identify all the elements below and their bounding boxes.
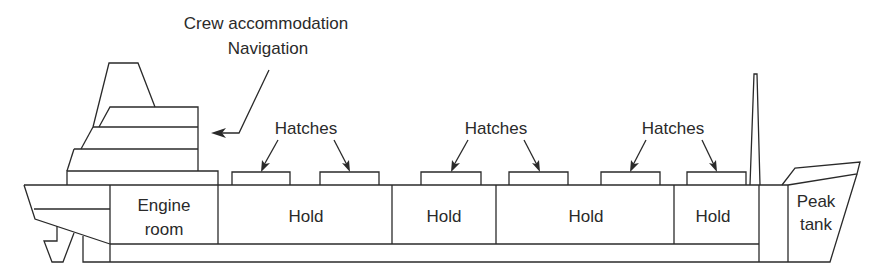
label-engine-room-line1: Engine xyxy=(138,196,191,215)
hatch-leader-1 xyxy=(264,140,278,165)
bridge-deck xyxy=(99,107,198,171)
label-peak-tank-line1: Peak xyxy=(797,192,836,211)
hatch-leader-5 xyxy=(633,140,646,165)
superstructure xyxy=(67,63,218,185)
hatch-leader-2 xyxy=(334,140,347,165)
hatch-leader-6 xyxy=(702,140,714,165)
stern-profile xyxy=(24,185,110,244)
funnel xyxy=(93,63,155,127)
hatch-cover-5 xyxy=(601,172,660,185)
mast xyxy=(750,74,760,185)
hatch-leader-4 xyxy=(524,140,537,165)
label-crew-accommodation: Crew accommodation xyxy=(184,14,348,33)
label-hold-3: Hold xyxy=(569,207,604,226)
label-peak-tank-line2: tank xyxy=(800,215,833,234)
forecastle xyxy=(782,162,860,185)
hatch-cover-2 xyxy=(320,172,379,185)
label-hold-4: Hold xyxy=(696,207,731,226)
ship-diagram: Crew accommodation Navigation Hatches Ha… xyxy=(0,0,875,277)
deck-level-3-side xyxy=(67,149,74,171)
label-hold-2: Hold xyxy=(427,207,462,226)
label-engine-room-line2: room xyxy=(145,220,184,239)
hatch-cover-1 xyxy=(232,172,290,185)
label-navigation: Navigation xyxy=(228,39,308,58)
poop-deck xyxy=(67,171,218,185)
hatch-cover-3 xyxy=(421,172,481,185)
label-hold-1: Hold xyxy=(289,207,324,226)
label-hatches-3: Hatches xyxy=(642,119,704,138)
label-hatches-2: Hatches xyxy=(465,119,527,138)
hatches xyxy=(232,172,746,185)
crew-leader-line xyxy=(222,70,269,133)
hatch-leader-3 xyxy=(454,140,468,165)
deck-level-2-side xyxy=(81,127,93,149)
rudder xyxy=(44,226,74,262)
hatch-cover-4 xyxy=(509,172,568,185)
label-hatches-1: Hatches xyxy=(275,119,337,138)
hatch-cover-6 xyxy=(687,172,746,185)
